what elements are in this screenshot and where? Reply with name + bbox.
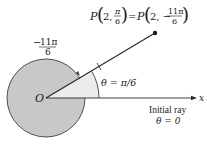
svg-text:11π: 11π	[40, 37, 57, 47]
theta-label: θ = π/6	[101, 77, 136, 88]
initial-ray-label: Initial ray	[149, 105, 186, 115]
point-p-label: P ( 2, π 6 ) = P ( 2, − 11π 6 )	[89, 4, 189, 26]
x-axis-label: x	[199, 93, 204, 103]
svg-text:6: 6	[45, 47, 51, 57]
svg-text:6: 6	[115, 17, 120, 26]
polar-diagram: O x P ( 2, π 6 ) = P ( 2, − 11π 6 ) − 11…	[0, 0, 207, 145]
svg-text:2,: 2,	[103, 11, 113, 22]
ray-tick-mark	[97, 63, 101, 70]
initial-ray-theta: θ = 0	[156, 116, 181, 126]
origin-label: O	[35, 92, 44, 105]
axis-arrow-icon	[191, 96, 197, 100]
svg-text:6: 6	[172, 17, 177, 26]
svg-text:=: =	[128, 11, 136, 22]
svg-text:): )	[182, 4, 189, 25]
svg-text:π: π	[114, 7, 121, 16]
point-p-dot	[153, 31, 157, 35]
negative-angle-label: − 11π 6	[33, 37, 57, 57]
svg-text:): )	[121, 4, 128, 25]
